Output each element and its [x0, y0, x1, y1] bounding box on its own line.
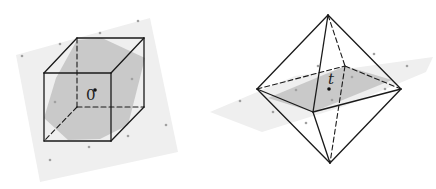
lattice-point	[88, 146, 91, 149]
octahedron-center-label: t	[328, 70, 335, 88]
lattice-point	[384, 88, 387, 91]
lattice-point	[21, 55, 24, 58]
lattice-point	[59, 43, 62, 46]
lattice-point	[317, 65, 320, 68]
lattice-point	[351, 76, 354, 79]
lattice-point	[127, 135, 130, 138]
octahedron-diagram: t	[210, 15, 433, 163]
lattice-point	[165, 124, 168, 127]
hidden-edge	[328, 15, 345, 66]
lattice-point	[373, 53, 376, 56]
lattice-point	[406, 65, 409, 68]
cube-center-label: 0	[86, 86, 96, 104]
lattice-point	[137, 20, 140, 23]
lattice-point	[49, 159, 52, 162]
lattice-point	[239, 100, 242, 103]
lattice-point	[272, 111, 275, 114]
lattice-point	[131, 78, 134, 81]
visible-edge	[313, 112, 330, 163]
lattice-point	[331, 99, 334, 102]
polytope-figure: 0 t	[0, 0, 436, 189]
lattice-point	[305, 122, 308, 125]
cube-diagram: 0	[16, 18, 178, 182]
lattice-point	[99, 32, 102, 35]
lattice-point	[54, 101, 57, 104]
lattice-point	[295, 89, 298, 92]
